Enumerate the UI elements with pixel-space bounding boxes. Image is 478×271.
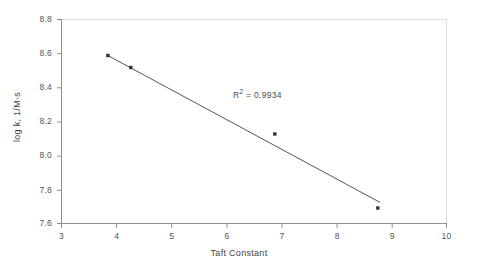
x-tick-label: 7 bbox=[272, 231, 292, 241]
y-tick-label: 8.4 bbox=[26, 82, 52, 92]
x-tick-label: 8 bbox=[327, 231, 347, 241]
y-tick-label: 7.8 bbox=[26, 185, 52, 195]
data-point bbox=[376, 206, 379, 209]
y-axis-ticks bbox=[57, 20, 61, 224]
x-tick-label: 10 bbox=[437, 231, 457, 241]
plot-area bbox=[0, 0, 478, 271]
x-axis-ticks bbox=[62, 224, 447, 228]
r-squared-value: = 0.9934 bbox=[243, 90, 281, 100]
y-tick-label: 8.6 bbox=[26, 48, 52, 58]
data-point bbox=[273, 132, 276, 135]
x-tick-label: 4 bbox=[107, 231, 127, 241]
y-tick-label: 7.6 bbox=[26, 218, 52, 228]
r-squared-annotation: R2 = 0.9934 bbox=[233, 88, 282, 100]
y-tick-label: 8.8 bbox=[26, 14, 52, 24]
y-tick-label: 8.2 bbox=[26, 116, 52, 126]
x-tick-label: 3 bbox=[52, 231, 72, 241]
data-point bbox=[129, 66, 132, 69]
y-axis-title: log k, 1/M-s bbox=[12, 62, 22, 172]
y-tick-label: 8.0 bbox=[26, 150, 52, 160]
x-tick-label: 6 bbox=[217, 231, 237, 241]
data-point bbox=[106, 54, 109, 57]
x-tick-label: 9 bbox=[382, 231, 402, 241]
trendline bbox=[108, 56, 380, 203]
x-axis-title: Taft Constant bbox=[0, 248, 478, 258]
chart-container: 8.8 8.6 8.4 8.2 8.0 7.8 7.6 3 4 5 6 7 8 … bbox=[0, 0, 478, 271]
x-tick-label: 5 bbox=[162, 231, 182, 241]
